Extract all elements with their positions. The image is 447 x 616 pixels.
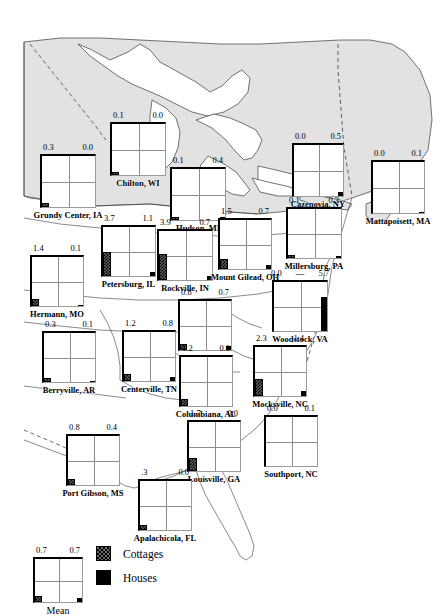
site-glyph-louisville-ga: 1.70.0Louisville, GA xyxy=(187,420,241,472)
site-glyph-hermann-mo: 1.40.1Hermann, MO xyxy=(30,255,84,307)
site-values-mocksville-nc: 2.31.4 xyxy=(253,333,307,343)
site-glyph-port-gibson-ms: 0.80.4Port Gibson, MS xyxy=(66,434,120,486)
houses-value-hudson-mi: 0.4 xyxy=(212,155,223,165)
cottages-value-hermann-mo: 1.4 xyxy=(33,243,44,253)
legend-item-cottages: Cottages xyxy=(96,546,163,561)
houses-bar-mocksville-nc xyxy=(301,391,306,396)
cottages-bar-columbiana-al xyxy=(181,399,188,406)
cottages-value-berryville-ar: 0.3 xyxy=(45,319,56,329)
site-values-columbiana-al: 1.20.0 xyxy=(179,343,233,353)
site-box-apalachicola-fl xyxy=(138,479,192,531)
site-values-centerville-tn: 1.20.8 xyxy=(122,318,176,328)
horizontal-divider-chilton-wi xyxy=(112,150,165,151)
cottages-bar-mocksville-nc xyxy=(255,379,263,396)
horizontal-divider-columbiana-al xyxy=(181,382,232,383)
site-label-louisville-ga: Louisville, GA xyxy=(188,474,240,484)
site-glyph-rockville-in: 3.90.7Rockville, IN xyxy=(157,229,213,281)
site-values-woodstock-va: 0.0—5.7 xyxy=(268,268,332,278)
cottages-bar-port-gibson-ms xyxy=(68,479,75,485)
site-values-chilton-wi: 0.10.0 xyxy=(110,110,166,120)
horizontal-divider-stanford-ky xyxy=(180,326,231,327)
cottages-value-centerville-tn: 1.2 xyxy=(125,318,136,328)
houses-value-chilton-wi: 0.0 xyxy=(152,110,163,120)
horizontal-divider-hermann-mo xyxy=(32,282,83,283)
cottages-value-louisville-ga: 1.7 xyxy=(190,408,201,418)
site-glyph-apalachicola-fl: .30.0Apalachicola, FL xyxy=(138,479,192,531)
site-label-southport-nc: Southport, NC xyxy=(264,469,317,479)
site-box-woodstock-va xyxy=(272,280,328,332)
site-glyph-columbiana-al: 1.20.0Columbiana, AL xyxy=(179,355,233,407)
cottages-value-southport-nc: 0.0 xyxy=(267,403,278,413)
site-label-berryville-ar: Berryville, AR xyxy=(43,385,95,395)
houses-value-cazenovia-ny: 0.5 xyxy=(330,131,341,141)
site-box-louisville-ga xyxy=(187,420,241,472)
horizontal-divider-southport-nc xyxy=(266,442,317,443)
mean-horizontal-divider xyxy=(35,581,82,582)
site-values-millersburg-pa: 0.10.3 xyxy=(286,195,342,205)
cottages-bar-rockville-in xyxy=(159,254,167,280)
cottages-bar-millersburg-pa xyxy=(288,255,295,258)
houses-value-southport-nc: 0.1 xyxy=(304,403,315,413)
houses-value-columbiana-al: 0.0 xyxy=(219,343,230,353)
site-box-petersburg-il xyxy=(101,225,156,277)
site-box-centerville-tn xyxy=(122,330,176,382)
site-values-rockville-in: 3.90.7 xyxy=(157,217,213,227)
cottages-value-port-gibson-ms: 0.8 xyxy=(69,422,80,432)
cottages-value-columbiana-al: 1.2 xyxy=(182,343,193,353)
mean-houses-bar xyxy=(77,598,82,602)
cottages-bar-grundy-center-ia xyxy=(42,203,49,207)
site-values-grundy-center-ia: 0.30.0 xyxy=(40,142,96,152)
cottages-value-woodstock-va: 0.0 xyxy=(271,268,282,278)
site-values-louisville-ga: 1.70.0 xyxy=(187,408,241,418)
site-glyph-chilton-wi: 0.10.0Chilton, WI xyxy=(110,122,166,176)
site-label-centerville-tn: Centerville, TN xyxy=(121,384,177,394)
houses-bar-petersburg-il xyxy=(150,272,155,276)
site-box-berryville-ar xyxy=(42,331,96,383)
cottages-value-grundy-center-ia: 0.3 xyxy=(43,142,54,152)
site-box-mocksville-nc xyxy=(253,345,307,397)
houses-value-louisville-ga: 0.0 xyxy=(227,408,238,418)
site-label-petersburg-il: Petersburg, IL xyxy=(102,279,155,289)
houses-swatch-icon xyxy=(96,570,111,585)
site-glyph-grundy-center-ia: 0.30.0Grundy Center, IA xyxy=(40,154,96,208)
site-box-columbiana-al xyxy=(179,355,233,407)
site-box-cazenovia-ny xyxy=(292,143,344,197)
houses-bar-centerville-tn xyxy=(170,377,175,381)
houses-value-mocksville-nc: 1.4 xyxy=(293,333,304,343)
horizontal-divider-cazenovia-ny xyxy=(294,171,343,172)
houses-bar-mattapoisett-ma xyxy=(419,212,424,213)
cottages-value-apalachicola-fl: .3 xyxy=(141,467,147,477)
horizontal-divider-louisville-ga xyxy=(189,447,240,448)
horizontal-divider-port-gibson-ms xyxy=(68,461,119,462)
mean-houses-value: 0.7 xyxy=(69,545,80,555)
horizontal-divider-mattapoisett-ma xyxy=(373,188,424,189)
site-label-port-gibson-ms: Port Gibson, MS xyxy=(62,488,123,498)
site-box-southport-nc xyxy=(264,415,318,467)
horizontal-divider-woodstock-va xyxy=(274,307,327,308)
cottages-value-chilton-wi: 0.1 xyxy=(113,110,124,120)
mean-cottages-bar xyxy=(35,596,42,602)
cottages-value-hudson-mi: 0.1 xyxy=(173,155,184,165)
site-values-hermann-mo: 1.40.1 xyxy=(30,243,84,253)
site-values-apalachicola-fl: .30.0 xyxy=(138,467,192,477)
site-values-mattapoisett-ma: 0.00.1 xyxy=(371,148,425,158)
mean-cottages-value: 0.7 xyxy=(36,545,47,555)
houses-value-rockville-in: 0.7 xyxy=(199,217,210,227)
houses-value-grundy-center-ia: 0.0 xyxy=(82,142,93,152)
site-label-apalachicola-fl: Apalachicola, FL xyxy=(134,533,196,543)
cottages-bar-hermann-mo xyxy=(32,299,39,306)
site-values-cazenovia-ny: 0.00.5 xyxy=(292,131,344,141)
legend-label-houses: Houses xyxy=(123,572,157,584)
cottages-value-millersburg-pa: 0.1 xyxy=(289,195,300,205)
horizontal-divider-mocksville-nc xyxy=(255,372,306,373)
site-box-chilton-wi xyxy=(110,122,166,176)
site-glyph-mocksville-nc: 2.31.4Mocksville, NC xyxy=(253,345,307,397)
site-box-port-gibson-ms xyxy=(66,434,120,486)
houses-value-woodstock-va: 5.7 xyxy=(318,268,329,278)
site-values-southport-nc: 0.00.1 xyxy=(264,403,318,413)
houses-value-centerville-tn: 0.8 xyxy=(162,318,173,328)
horizontal-divider-grundy-center-ia xyxy=(42,182,95,183)
site-glyph-cazenovia-ny: 0.00.5Cazenovia, NY xyxy=(292,143,344,197)
horizontal-divider-centerville-tn xyxy=(124,357,175,358)
site-glyph-woodstock-va: 0.0—5.7Woodstock, VA xyxy=(272,280,328,332)
